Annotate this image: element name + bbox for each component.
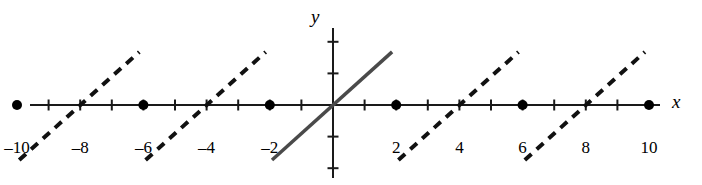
axis-point-marker — [12, 100, 22, 110]
x-axis-tick-label: 4 — [455, 138, 464, 158]
x-axis-tick-label: –2 — [261, 138, 278, 158]
coordinate-plane — [0, 0, 702, 185]
graph-figure: –10–8–6–4–2246810 x y — [0, 0, 702, 185]
x-axis-label: x — [672, 91, 680, 113]
axis-point-marker — [265, 100, 275, 110]
axis-point-marker — [518, 100, 528, 110]
y-axis-label: y — [311, 6, 319, 28]
axis-point-marker — [391, 100, 401, 110]
x-axis-tick-label: 6 — [518, 138, 527, 158]
axis-point-marker — [138, 100, 148, 110]
x-axis-tick-label: 8 — [582, 138, 591, 158]
x-axis-tick-label: 2 — [392, 138, 401, 158]
x-axis-tick-label: 10 — [641, 138, 658, 158]
x-axis-tick-label: –10 — [4, 138, 30, 158]
axes-group — [30, 28, 660, 178]
x-axis-tick-label: –8 — [72, 138, 89, 158]
x-axis-tick-label: –4 — [198, 138, 215, 158]
x-axis-tick-label: –6 — [135, 138, 152, 158]
axis-point-marker — [644, 100, 654, 110]
